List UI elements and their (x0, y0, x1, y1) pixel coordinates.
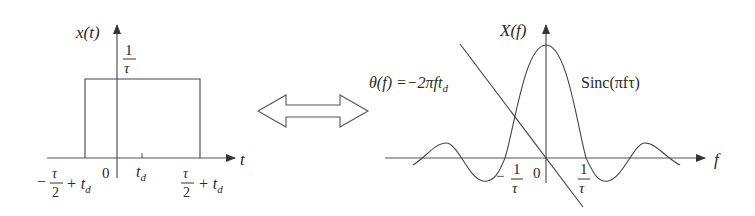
neg-zero-label: − 1 τ (496, 161, 523, 196)
pos-zero-label: 1 τ (578, 161, 590, 196)
fourier-pair-diagram: x(t) 1 τ t 0 td − τ 2 + td τ 2 + td X(f)… (0, 0, 755, 216)
left-plot (47, 25, 235, 178)
X-f-label: X(f) (499, 21, 527, 40)
phase-label: θ(f) =−2πftd (369, 74, 448, 94)
amp-num: 1 (125, 42, 133, 58)
svg-text:−: − (496, 168, 504, 184)
right-plot (385, 25, 705, 207)
svg-text:1: 1 (580, 161, 588, 177)
svg-text:τ: τ (579, 180, 585, 196)
origin-label-left: 0 (102, 165, 110, 181)
svg-text:τ: τ (183, 166, 189, 181)
td-label: td (136, 163, 146, 183)
rect-pulse (85, 79, 200, 158)
left-edge-label: − τ 2 + td (37, 166, 91, 200)
svg-text:2: 2 (183, 185, 190, 200)
amp-den: τ (124, 60, 130, 76)
origin-label-right: 0 (533, 165, 541, 181)
svg-text:+ td: + td (66, 175, 91, 195)
svg-text:τ: τ (52, 166, 58, 181)
svg-text:+ td: + td (198, 175, 223, 195)
right-edge-label: τ 2 + td (181, 166, 223, 200)
t-axis-label: t (240, 150, 246, 169)
double-arrow-icon (258, 95, 368, 127)
svg-text:τ: τ (512, 180, 518, 196)
svg-text:2: 2 (52, 185, 59, 200)
svg-text:1: 1 (513, 161, 521, 177)
svg-text:−: − (37, 173, 46, 190)
x-t-label: x(t) (75, 23, 100, 42)
sinc-label: Sinc(πfτ) (581, 74, 640, 92)
f-axis-label: f (714, 150, 721, 169)
